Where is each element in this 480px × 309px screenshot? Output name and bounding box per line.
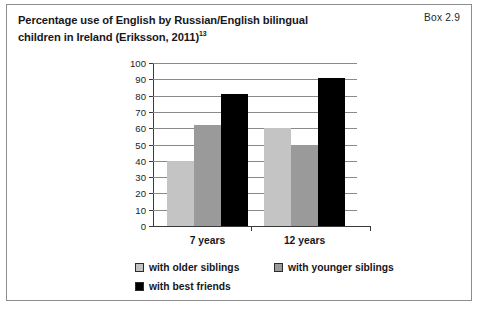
x-axis-tick-label: 7 years xyxy=(190,235,226,246)
bar-group xyxy=(167,63,248,226)
x-axis-tick-label: 12 years xyxy=(284,235,325,246)
bar-group xyxy=(264,63,345,226)
page-title: Percentage use of English by Russian/Eng… xyxy=(18,12,318,46)
legend-swatch-icon xyxy=(274,263,283,272)
title-footnote-marker: 13 xyxy=(199,30,207,37)
y-axis-tick-label: 50 xyxy=(135,139,146,150)
bar xyxy=(318,78,345,226)
y-axis-tick-mark xyxy=(149,112,153,113)
y-axis-tick-label: 30 xyxy=(135,172,146,183)
box-container: Percentage use of English by Russian/Eng… xyxy=(6,4,472,301)
legend-row-2: with best friends xyxy=(135,281,465,300)
legend-item-younger-siblings: with younger siblings xyxy=(274,262,394,273)
y-axis-tick-label: 20 xyxy=(135,188,146,199)
legend-swatch-icon xyxy=(135,263,144,272)
y-axis-tick-label: 80 xyxy=(135,90,146,101)
plot-area: 1009080706050403020100 xyxy=(153,63,357,226)
bar xyxy=(194,125,221,226)
bar xyxy=(221,94,248,226)
legend-item-older-siblings: with older siblings xyxy=(135,262,239,273)
legend-item-best-friends: with best friends xyxy=(135,281,231,292)
y-axis-tick-label: 0 xyxy=(141,221,146,232)
bars-layer xyxy=(154,63,357,226)
y-axis-tick-label: 90 xyxy=(135,74,146,85)
bar-chart: 1009080706050403020100 7 years12 years w… xyxy=(7,49,473,301)
bar xyxy=(264,128,291,226)
y-axis-tick-mark xyxy=(149,96,153,97)
y-axis-tick-label: 40 xyxy=(135,155,146,166)
y-axis-tick-label: 100 xyxy=(130,58,146,69)
y-axis-tick-label: 10 xyxy=(135,204,146,215)
y-axis-tick-mark xyxy=(149,161,153,162)
y-axis-tick-label: 60 xyxy=(135,123,146,134)
y-axis-tick-mark xyxy=(149,128,153,129)
y-axis-tick-mark xyxy=(149,193,153,194)
bar xyxy=(167,161,194,226)
x-axis-end-tick-mark xyxy=(370,226,371,231)
bar xyxy=(291,145,318,227)
y-axis-tick-mark xyxy=(149,63,153,64)
y-axis-tick-mark xyxy=(149,145,153,146)
x-axis-line xyxy=(153,226,371,227)
y-axis-tick-label: 70 xyxy=(135,106,146,117)
box-label: Box 2.9 xyxy=(424,12,460,23)
y-axis-tick-mark xyxy=(149,79,153,80)
chart-legend: with older siblings with younger sibling… xyxy=(135,262,465,300)
title-text: Percentage use of English by Russian/Eng… xyxy=(18,14,308,43)
y-axis-tick-mark xyxy=(149,177,153,178)
box-header: Percentage use of English by Russian/Eng… xyxy=(7,5,471,49)
legend-label: with younger siblings xyxy=(288,262,394,273)
legend-label: with best friends xyxy=(149,281,231,292)
x-axis-tick-mark xyxy=(251,226,252,231)
legend-swatch-icon xyxy=(135,282,144,291)
y-axis-tick-mark xyxy=(149,210,153,211)
legend-label: with older siblings xyxy=(149,262,239,273)
legend-row-1: with older siblings with younger sibling… xyxy=(135,262,465,281)
